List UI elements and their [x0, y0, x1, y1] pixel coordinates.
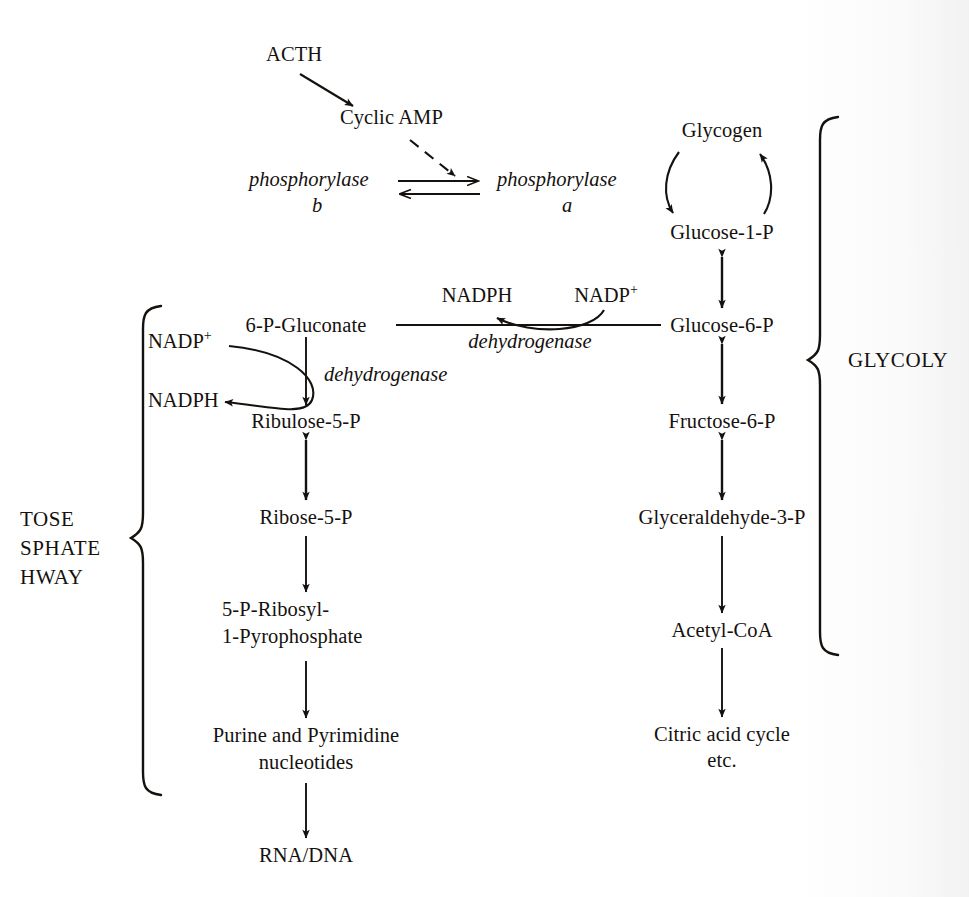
pentose-phosphate-label-line3: HWAY: [20, 563, 101, 592]
node-glycogen: Glycogen: [682, 118, 763, 143]
node-phosphorylase-a-subscript: a: [562, 194, 572, 217]
node-prpp-line2: 1-Pyrophosphate: [222, 624, 362, 649]
glycolysis-brace: [808, 117, 838, 655]
cofactor-nadp-plus-pgd-charge: +: [204, 328, 212, 343]
node-cyclic-amp: Cyclic AMP: [340, 105, 443, 130]
arrow-glycogen-to-glucose1p: [666, 152, 679, 213]
enzyme-g6p-dehydrogenase: dehydrogenase: [468, 330, 591, 353]
arc-nadp-to-nadph-pgd: [225, 346, 313, 409]
node-glucose-6-p: Glucose-6-P: [670, 313, 774, 338]
cofactor-nadp-plus-pgd-text: NADP: [148, 330, 204, 352]
pentose-phosphate-bracket-label: TOSE SPHATE HWAY: [20, 505, 101, 592]
cofactor-nadp-plus-g6pd: NADP+: [574, 284, 638, 307]
pathway-diagram-canvas: phosphorylase (dashed activation) -->: [0, 0, 969, 897]
pentose-phosphate-brace: [131, 306, 161, 795]
node-glyceraldehyde-3-p: Glyceraldehyde-3-P: [639, 505, 806, 530]
cofactor-nadp-plus-g6pd-charge: +: [630, 282, 638, 297]
node-nucleotides-line2: nucleotides: [259, 750, 353, 775]
node-acth: ACTH: [266, 42, 322, 67]
cofactor-nadph-g6pd: NADPH: [442, 284, 513, 307]
pentose-phosphate-label-line2: SPHATE: [20, 534, 101, 563]
node-fructose-6-p: Fructose-6-P: [668, 409, 775, 434]
node-prpp-line1: 5-P-Ribosyl-: [222, 597, 329, 622]
pentose-phosphate-label-line1: TOSE: [20, 505, 101, 534]
arrow-glucose1p-to-glycogen: [760, 154, 771, 214]
node-ribose-5-p: Ribose-5-P: [259, 505, 352, 530]
node-ribulose-5-p: Ribulose-5-P: [251, 409, 360, 434]
cofactor-nadph-g6pd-text: NADPH: [442, 284, 513, 306]
node-6-p-gluconate: 6-P-Gluconate: [246, 313, 367, 338]
glycolysis-bracket-label: GLYCOLY: [848, 346, 948, 375]
arrow-cyclic-amp-to-phosphorylase: [410, 140, 455, 176]
node-phosphorylase-b: phosphorylase: [249, 168, 369, 191]
cofactor-nadp-plus-g6pd-text: NADP: [574, 284, 630, 306]
node-citric-acid-cycle-line1: Citric acid cycle: [654, 722, 790, 747]
arrow-acth-to-cyclic-amp: [300, 74, 353, 106]
node-citric-acid-cycle-line2: etc.: [707, 748, 736, 773]
enzyme-gluconate-dehydrogenase: dehydrogenase: [324, 363, 447, 386]
arc-nadp-to-nadph-g6pd: [497, 310, 604, 329]
cofactor-nadp-plus-pgd: NADP+: [148, 330, 212, 353]
node-phosphorylase-b-subscript: b: [312, 194, 322, 217]
node-phosphorylase-a: phosphorylase: [497, 168, 617, 191]
node-nucleotides-line1: Purine and Pyrimidine: [213, 723, 400, 748]
pathway-arrows-layer: phosphorylase (dashed activation) -->: [0, 0, 969, 897]
node-rna-dna: RNA/DNA: [259, 843, 353, 868]
node-acetyl-coa: Acetyl-CoA: [671, 618, 772, 643]
node-glucose-1-p: Glucose-1-P: [670, 220, 774, 245]
cofactor-nadph-pgd: NADPH: [148, 389, 219, 412]
